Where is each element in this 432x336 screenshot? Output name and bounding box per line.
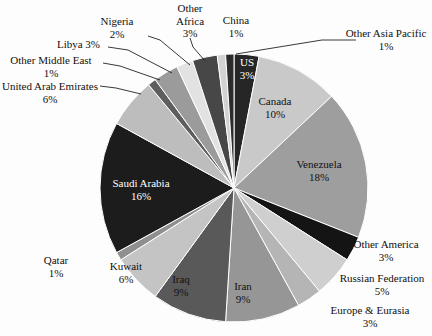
slice-label-other-america-name: Other America: [340, 238, 432, 251]
slice-label-qatar-percent: 1%: [28, 267, 84, 280]
pie-chart: Other Africa 3% Nigeria 2% China 1% Othe…: [0, 0, 432, 336]
slice-label-us-name: US: [230, 56, 264, 69]
slice-label-saudi-arabia-name: Saudi Arabia: [100, 177, 182, 190]
leader-line-libya: [108, 47, 172, 73]
slice-label-venezuela-name: Venezuela: [288, 158, 350, 171]
slice-label-other-america-percent: 3%: [340, 251, 432, 264]
slice-label-other-africa: Other Africa 3%: [162, 2, 218, 40]
slice-label-europe-eurasia: Europe & Eurasia 3%: [318, 304, 422, 329]
slice-label-other-asia-pacific: Other Asia Pacific 1%: [340, 27, 432, 52]
slice-label-kuwait: Kuwait 6%: [100, 260, 152, 285]
slice-label-iran: Iran 9%: [222, 280, 264, 305]
slice-label-libya: Libya 3%: [18, 38, 100, 51]
slice-label-saudi-arabia-percent: 16%: [100, 190, 182, 203]
slice-label-libya-name: Libya 3%: [18, 38, 100, 51]
slice-label-other-middle-east-percent: 1%: [2, 67, 100, 80]
slice-label-nigeria-name: Nigeria: [86, 15, 148, 28]
slice-label-canada-percent: 10%: [248, 108, 302, 121]
leader-line-other-asia-pacific: [236, 40, 356, 54]
slice-label-qatar: Qatar 1%: [28, 254, 84, 279]
slice-label-iraq-name: Iraq: [160, 273, 202, 286]
slice-label-europe-eurasia-name: Europe & Eurasia: [318, 304, 422, 317]
slice-label-saudi-arabia: Saudi Arabia 16%: [100, 177, 182, 202]
leader-line-other-middle-east: [103, 63, 160, 80]
slice-label-nigeria: Nigeria 2%: [86, 15, 148, 40]
slice-label-kuwait-percent: 6%: [100, 273, 152, 286]
slice-label-us: US 3%: [230, 56, 264, 81]
slice-label-europe-eurasia-percent: 3%: [318, 317, 422, 330]
leader-line-nigeria: [148, 36, 190, 65]
slice-label-russian-federation-percent: 5%: [332, 285, 432, 298]
slice-label-iran-percent: 9%: [222, 293, 264, 306]
leader-line-uae: [100, 86, 141, 94]
slice-label-china-name: China: [212, 14, 260, 27]
slice-label-russian-federation: Russian Federation 5%: [332, 272, 432, 297]
slice-label-other-middle-east: Other Middle East 1%: [2, 54, 100, 79]
slice-label-us-percent: 3%: [230, 69, 264, 82]
slice-label-uae: United Arab Emirates 6%: [0, 80, 100, 105]
slice-label-other-africa-name1: Other: [162, 2, 218, 15]
slice-label-russian-federation-name: Russian Federation: [332, 272, 432, 285]
slice-label-china: China 1%: [212, 14, 260, 39]
slice-label-canada: Canada 10%: [248, 95, 302, 120]
slice-label-uae-name: United Arab Emirates: [0, 80, 100, 93]
slice-label-china-percent: 1%: [212, 27, 260, 40]
slice-label-iraq-percent: 9%: [160, 286, 202, 299]
slice-label-uae-percent: 6%: [0, 93, 100, 106]
slice-label-qatar-name: Qatar: [28, 254, 84, 267]
slice-label-other-asia-pacific-name: Other Asia Pacific: [340, 27, 432, 40]
slice-label-iraq: Iraq 9%: [160, 273, 202, 298]
slice-label-venezuela: Venezuela 18%: [288, 158, 350, 183]
slice-label-other-america: Other America 3%: [340, 238, 432, 263]
slice-label-other-africa-name2: Africa: [162, 15, 218, 28]
slice-label-venezuela-percent: 18%: [288, 171, 350, 184]
slice-label-kuwait-name: Kuwait: [100, 260, 152, 273]
slice-label-iran-name: Iran: [222, 280, 264, 293]
slice-label-canada-name: Canada: [248, 95, 302, 108]
slice-label-other-middle-east-name: Other Middle East: [2, 54, 100, 67]
slice-label-other-africa-percent: 3%: [162, 27, 218, 40]
slice-label-other-asia-pacific-percent: 1%: [340, 40, 432, 53]
